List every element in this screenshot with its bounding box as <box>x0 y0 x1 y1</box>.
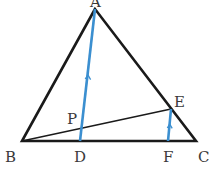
label-f: F <box>163 148 173 166</box>
label-c: C <box>198 148 209 166</box>
label-p: P <box>67 110 77 128</box>
label-b: B <box>5 148 16 166</box>
segment-be <box>22 109 171 141</box>
label-e: E <box>174 93 185 111</box>
label-d: D <box>74 148 86 166</box>
geometry-diagram: A B C D E F P <box>0 0 222 175</box>
label-a: A <box>89 0 101 11</box>
